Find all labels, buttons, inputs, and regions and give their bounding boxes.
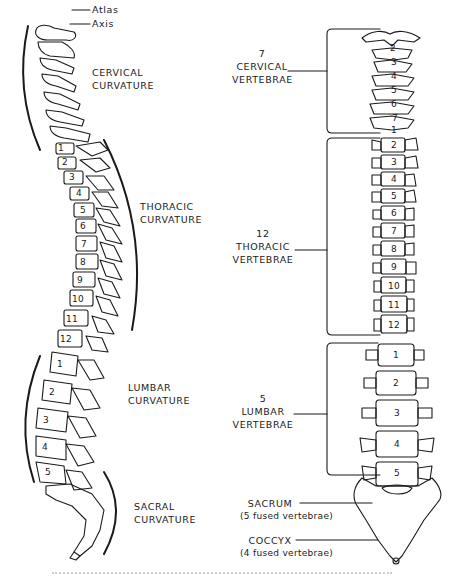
thoracic-line1: THORACIC [232, 240, 294, 253]
label-coccyx: COCCYX (4 fused vertebrae) [240, 534, 324, 560]
label-thoracic-curvature: THORACIC CURVATURE [140, 200, 202, 226]
label-cervical-vertebrae: 7 CERVICAL VERTEBRAE [232, 47, 292, 86]
right-lumbar-4: 4 [394, 438, 400, 451]
right-lumbar-2: 2 [393, 377, 399, 390]
figure-caption-cropped [52, 572, 392, 577]
cervical-count: 7 [232, 47, 292, 60]
bracket-thoracic [295, 138, 380, 335]
lumbar-line1: LUMBAR [232, 405, 294, 418]
left-lumbar-3: 3 [43, 414, 49, 427]
left-thoracic-11: 11 [66, 313, 78, 326]
lumbar-line2: VERTEBRAE [232, 418, 294, 431]
left-thoracic-8: 8 [80, 256, 86, 269]
thoracic-curvature-line1: THORACIC [140, 200, 202, 213]
label-atlas: Atlas [92, 3, 118, 16]
right-thoracic-9: 9 [391, 261, 397, 274]
left-lumbar-5: 5 [45, 466, 51, 479]
bracket-lumbar [294, 343, 380, 475]
right-cervical-3: 3 [391, 56, 397, 69]
left-lumbar-4: 4 [42, 441, 48, 454]
sacrum-name: SACRUM [240, 497, 324, 510]
bracket-cervical [288, 29, 380, 133]
label-cervical-curvature: CERVICAL CURVATURE [92, 66, 154, 92]
lumbar-curvature-line1: LUMBAR [128, 381, 190, 394]
sacrum-note: (5 fused vertebrae) [240, 510, 324, 523]
cervical-line2: VERTEBRAE [232, 73, 292, 86]
right-thoracic-2: 2 [391, 139, 397, 152]
right-thoracic-11: 11 [388, 299, 400, 312]
right-thoracic-10: 10 [388, 280, 400, 293]
right-cervical-4: 4 [391, 70, 397, 83]
left-thoracic-1: 1 [58, 142, 64, 155]
cervical-curvature-line2: CURVATURE [92, 79, 154, 92]
right-thoracic-6: 6 [391, 207, 397, 220]
coccyx-name: COCCYX [240, 534, 324, 547]
cervical-line1: CERVICAL [232, 60, 292, 73]
coccyx-note: (4 fused vertebrae) [240, 547, 324, 560]
left-thoracic-3: 3 [69, 171, 75, 184]
left-thoracic-12: 12 [60, 333, 72, 346]
spine-illustration [0, 0, 452, 577]
label-sacrum: SACRUM (5 fused vertebrae) [240, 497, 324, 523]
right-cervical-6: 6 [391, 98, 397, 111]
label-thoracic-vertebrae: 12 THORACIC VERTEBRAE [232, 227, 294, 266]
thoracic-line2: VERTEBRAE [232, 253, 294, 266]
right-thoracic-8: 8 [391, 243, 397, 256]
right-thoracic-1: 1 [391, 124, 397, 137]
label-lumbar-curvature: LUMBAR CURVATURE [128, 381, 190, 407]
right-cervical-2: 2 [390, 42, 396, 55]
right-lumbar-5: 5 [394, 467, 400, 480]
left-lumbar-1: 1 [57, 358, 63, 371]
cervical-curvature-arc [23, 26, 40, 150]
right-cervical-5: 5 [391, 84, 397, 97]
left-sacrum [46, 484, 104, 556]
right-thoracic-7: 7 [391, 225, 397, 238]
right-thoracic-12: 12 [388, 319, 400, 332]
right-thoracic-3: 3 [391, 156, 397, 169]
right-thoracic-4: 4 [391, 173, 397, 186]
sacral-curvature-arc [104, 472, 116, 554]
right-thoracic-5: 5 [391, 190, 397, 203]
left-thoracic-5: 5 [80, 204, 86, 217]
left-thoracic-2: 2 [62, 156, 68, 169]
sacral-curvature-line2: CURVATURE [134, 513, 196, 526]
left-thoracic-10: 10 [72, 293, 84, 306]
right-sacrum [354, 478, 441, 562]
thoracic-count: 12 [232, 227, 294, 240]
left-lumbar-processes [66, 360, 104, 490]
left-lumbar-2: 2 [49, 386, 55, 399]
label-axis: Axis [92, 17, 114, 30]
left-thoracic-6: 6 [80, 220, 86, 233]
left-thoracic-9: 9 [77, 274, 83, 287]
lumbar-count: 5 [232, 392, 294, 405]
left-thoracic-4: 4 [76, 187, 82, 200]
label-sacral-curvature: SACRAL CURVATURE [134, 500, 196, 526]
right-lumbar-1: 1 [393, 349, 399, 362]
right-lumbar-3: 3 [394, 407, 400, 420]
cervical-curvature-line1: CERVICAL [92, 66, 154, 79]
sacral-curvature-line1: SACRAL [134, 500, 196, 513]
lumbar-curvature-arc [25, 356, 40, 482]
lumbar-curvature-line2: CURVATURE [128, 394, 190, 407]
left-thoracic-7: 7 [81, 238, 87, 251]
thoracic-curvature-line2: CURVATURE [140, 213, 202, 226]
label-lumbar-vertebrae: 5 LUMBAR VERTEBRAE [232, 392, 294, 431]
